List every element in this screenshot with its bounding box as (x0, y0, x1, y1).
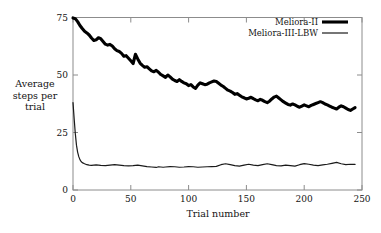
x-tick-label: 100 (180, 194, 197, 204)
x-tick-label: 200 (296, 194, 313, 204)
legend-swatches (322, 22, 348, 33)
chart-figure: Average steps per trial Trial number 025… (0, 0, 381, 233)
x-tick-label: 150 (238, 194, 255, 204)
y-axis-label-line-2: steps per (4, 90, 66, 102)
x-tick-label: 50 (125, 194, 136, 204)
series-layer (73, 18, 355, 168)
x-tick-label: 250 (353, 194, 370, 204)
legend-label-2: Meliora-III-LBW (190, 28, 318, 38)
series-line-2 (73, 103, 355, 168)
x-tick-label: 0 (70, 194, 76, 204)
y-tick-label: 25 (46, 128, 68, 138)
y-axis-label: Average steps per trial (4, 78, 66, 113)
y-tick-label: 50 (46, 70, 68, 80)
y-tick-label: 0 (46, 185, 68, 195)
y-axis-label-line-3: trial (4, 101, 66, 113)
x-axis-label: Trial number (73, 208, 363, 219)
legend-label-1: Meliora-II (190, 17, 318, 27)
y-tick-label: 75 (46, 13, 68, 23)
